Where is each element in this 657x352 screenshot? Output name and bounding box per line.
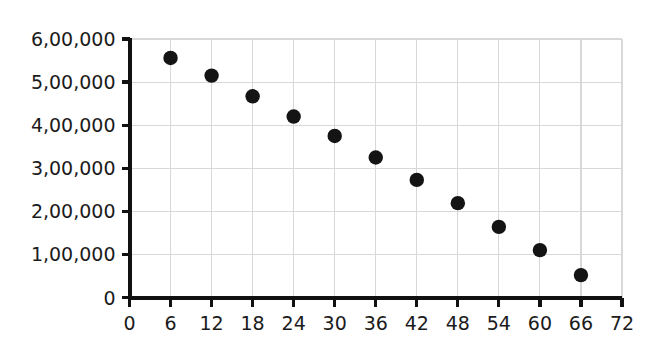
x-axis-tick-labels: 061218243036424854606672 (123, 312, 634, 334)
x-tick-label: 54 (487, 312, 511, 334)
data-point (533, 243, 547, 257)
x-tick-label: 18 (241, 312, 265, 334)
axis-ticks (122, 39, 623, 307)
x-tick-label: 48 (446, 312, 470, 334)
y-axis-tick-labels: 01,00,0002,00,0003,00,0004,00,0005,00,00… (31, 28, 116, 309)
x-tick-label: 6 (164, 312, 176, 334)
x-tick-label: 60 (528, 312, 552, 334)
data-point (492, 220, 506, 234)
data-point (286, 109, 300, 123)
scatter-chart: 01,00,0002,00,0003,00,0004,00,0005,00,00… (0, 0, 657, 352)
data-point (328, 129, 342, 143)
y-tick-label: 2,00,000 (31, 200, 116, 222)
x-tick-label: 0 (123, 312, 135, 334)
y-tick-label: 3,00,000 (31, 157, 116, 179)
x-tick-label: 36 (364, 312, 388, 334)
gridlines (130, 39, 623, 298)
chart-canvas: 01,00,0002,00,0003,00,0004,00,0005,00,00… (0, 0, 657, 352)
data-point (163, 51, 177, 65)
y-tick-label: 0 (103, 287, 115, 309)
data-point (369, 150, 383, 164)
x-tick-label: 30 (323, 312, 347, 334)
data-point (574, 268, 588, 282)
x-tick-label: 24 (282, 312, 306, 334)
x-tick-label: 42 (405, 312, 429, 334)
data-point (204, 68, 218, 82)
x-tick-label: 72 (610, 312, 634, 334)
y-tick-label: 1,00,000 (31, 243, 116, 265)
x-tick-label: 66 (569, 312, 593, 334)
y-tick-label: 5,00,000 (31, 71, 116, 93)
x-tick-label: 12 (199, 312, 223, 334)
y-tick-label: 6,00,000 (31, 28, 116, 50)
data-point (245, 89, 259, 103)
data-point (451, 196, 465, 210)
data-point (410, 173, 424, 187)
y-tick-label: 4,00,000 (31, 114, 116, 136)
